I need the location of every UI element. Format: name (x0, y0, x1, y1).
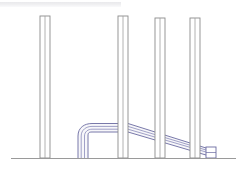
technical-drawing (0, 0, 249, 171)
connector-block (206, 147, 216, 158)
post-3 (155, 18, 165, 158)
post-1 (40, 16, 50, 158)
post-4 (190, 18, 200, 158)
post-2 (118, 16, 128, 158)
cable-bundle (78, 124, 206, 159)
cable-body (78, 124, 206, 159)
illustration-canvas: Line drawing of four vertical posts stan… (0, 0, 249, 171)
